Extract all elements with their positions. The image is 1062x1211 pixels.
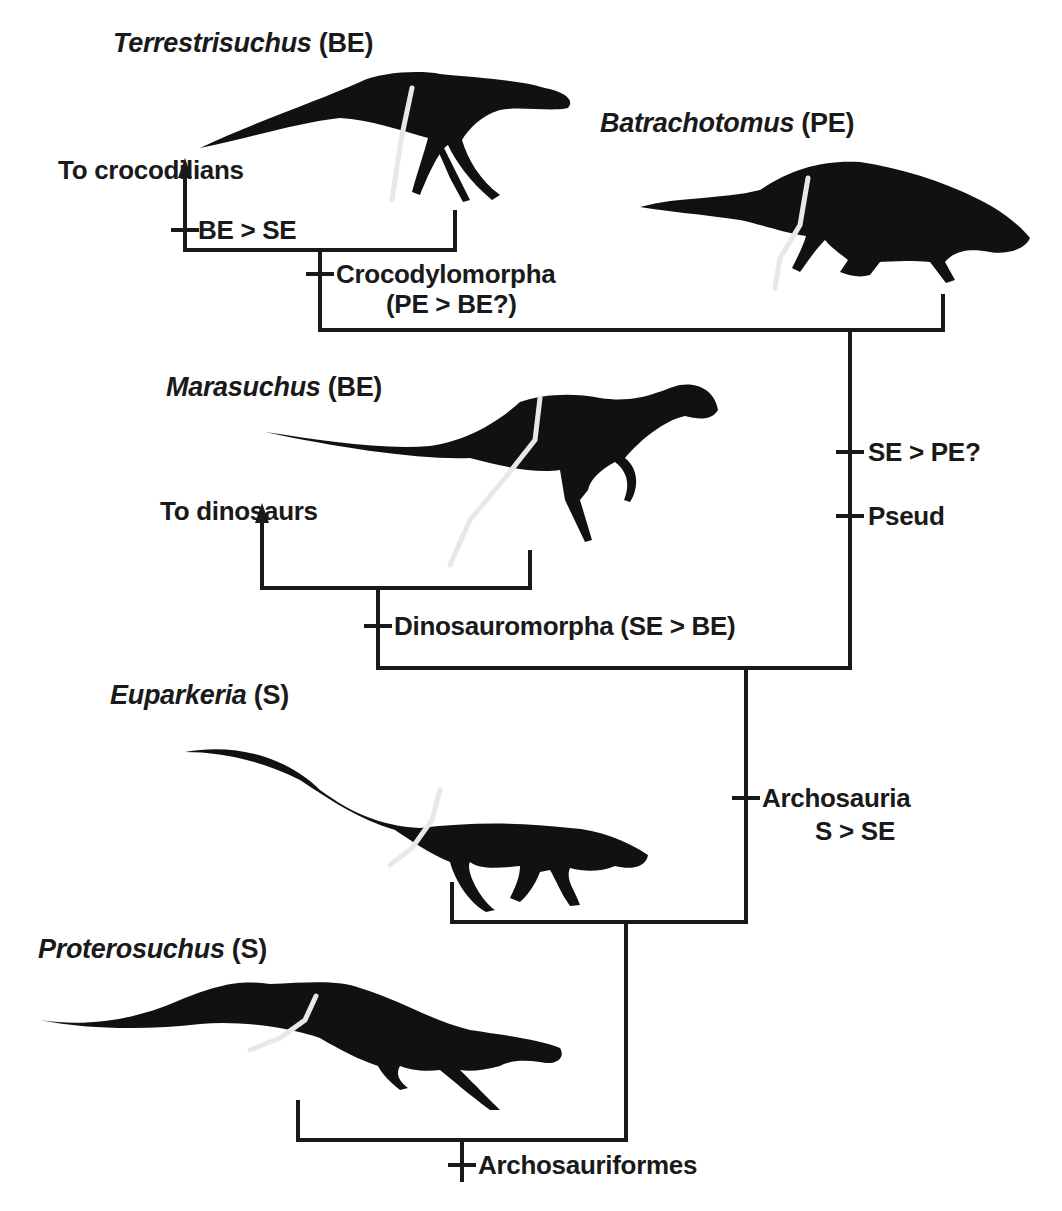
posture-code: (S) [232,934,267,964]
posture-code: (S) [254,680,289,710]
genus-name: Proterosuchus [38,934,225,964]
euparkeria-silhouette [185,749,648,912]
taxon-label-euparkeria: Euparkeria (S) [110,680,289,710]
posture-code: (BE) [319,28,373,58]
node-label-se-pe: SE > PE? [868,437,980,467]
genus-name: Marasuchus [166,372,321,402]
genus-name: Terrestrisuchus [113,28,312,58]
taxon-label-terrestrisuchus: Terrestrisuchus (BE) [113,28,373,58]
terrestrisuchus-silhouette [200,72,570,202]
node-label-archosauria: Archosauria [762,783,910,813]
genus-name: Batrachotomus [600,108,794,138]
lineage-to-dinosaurs: To dinosaurs [160,496,318,526]
node-label-dinosauromorpha: Dinosauromorpha (SE > BE) [394,611,735,641]
proterosuchus-silhouette [40,982,562,1110]
genus-name: Euparkeria [110,680,247,710]
node-label-crocodylomorpha-note: (PE > BE?) [386,289,517,319]
batrachotomus-silhouette [640,162,1030,283]
node-label-archosauria-note: S > SE [800,816,910,846]
posture-code: (BE) [328,372,382,402]
node-label-crocodylomorpha: Crocodylomorpha [336,259,555,289]
lineage-to-crocodilians: To crocodilians [58,155,244,185]
posture-code: (PE) [801,108,854,138]
taxon-label-batrachotomus: Batrachotomus (PE) [600,108,854,138]
taxon-label-marasuchus: Marasuchus (BE) [166,372,382,402]
marasuchus-silhouette [265,384,718,542]
node-label-pseud: Pseud [868,501,945,531]
node-label-be-se: BE > SE [198,215,296,245]
node-label-archosauriformes: Archosauriformes [478,1150,697,1180]
taxon-label-proterosuchus: Proterosuchus (S) [38,934,267,964]
